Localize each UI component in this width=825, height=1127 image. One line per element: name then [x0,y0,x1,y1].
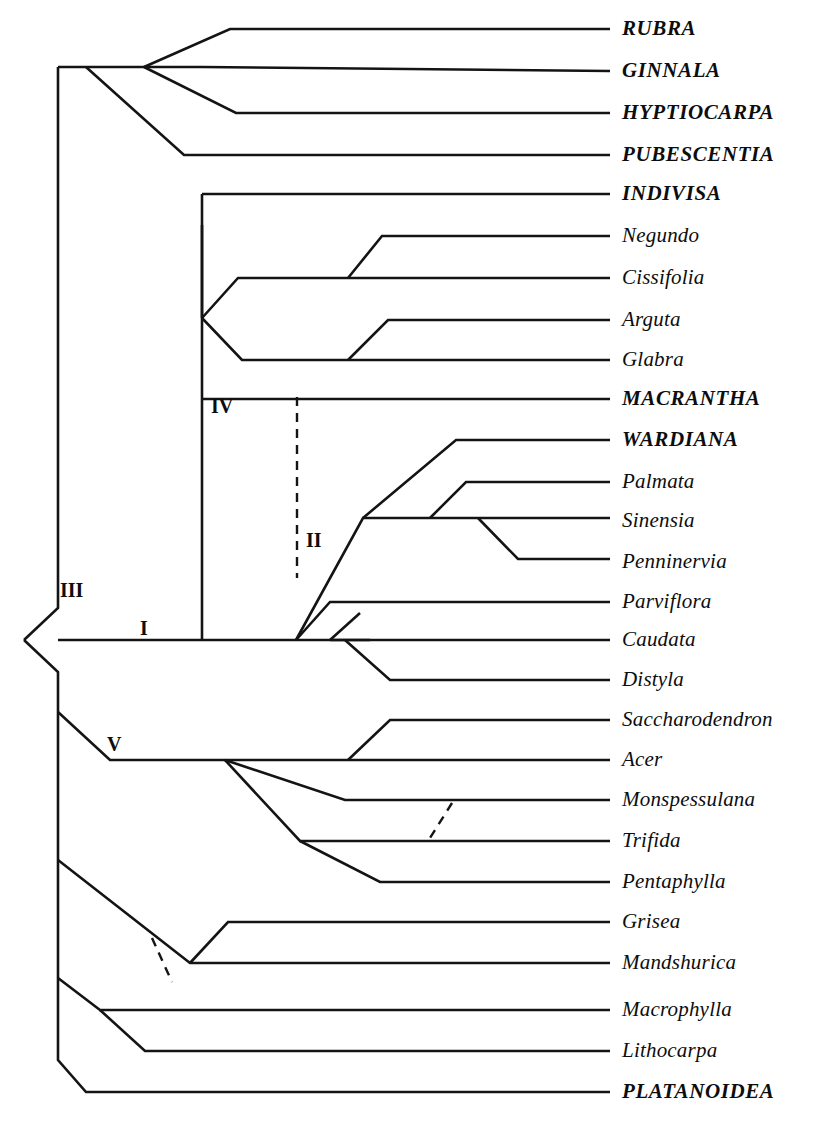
tip-label-penninervia: Penninervia [622,551,727,572]
branch-tip-arguta [348,320,610,360]
branch-tip-parviflora [296,602,610,640]
branch-IV-lower-pair [202,318,610,360]
branch-grisea-stem [58,860,610,963]
branch-tip-grisea [190,922,610,963]
branch-tip-monspessulana [225,760,610,800]
clade-mark-III: III [60,580,83,600]
tip-label-pentaphylla: Pentaphylla [622,871,726,892]
tip-label-distyla: Distyla [622,669,684,690]
branch-tip-penninervia [478,518,610,559]
tip-label-macrophylla: Macrophylla [622,999,732,1020]
clade-mark-I: I [140,618,148,638]
branch-tip-rubra [144,29,610,67]
branch-tip-wardiana [363,440,610,518]
tip-label-macrantha: MACRANTHA [622,388,760,409]
clade-mark-II: II [306,530,322,550]
branch-tip-negundo [348,236,610,278]
tip-label-cissifolia: Cissifolia [622,267,705,288]
tip-label-monspessulana: Monspessulana [622,789,755,810]
branch-tip-distyla [345,640,610,680]
branch-tip-pubescentia [86,67,610,155]
clade-mark-V: V [107,734,121,754]
tip-label-acer: Acer [622,749,662,770]
branch-IV-upper-pair [202,278,610,318]
tip-label-negundo: Negundo [622,225,699,246]
tip-label-glabra: Glabra [622,349,684,370]
branch-tip-palmata [430,482,610,518]
tip-label-trifida: Trifida [622,830,681,851]
branch-II-riser [296,518,610,640]
clade-mark-IV: IV [211,396,233,416]
tip-label-sinensia: Sinensia [622,510,695,531]
tip-label-wardiana: WARDIANA [622,429,738,450]
branch-tip-macrophylla [58,978,610,1010]
tip-label-arguta: Arguta [622,309,681,330]
tip-label-lithocarpa: Lithocarpa [622,1040,717,1061]
branch-tip-ginnala [202,67,610,71]
tip-label-rubra: RUBRA [622,18,696,39]
branch-tip-lithocarpa [100,1010,610,1051]
tip-label-indivisa: INDIVISA [622,183,721,204]
tip-label-palmata: Palmata [622,471,695,492]
tip-label-saccharodendron: Saccharodendron [622,709,773,730]
tip-label-caudata: Caudata [622,629,696,650]
branch-root-lower [24,640,610,1092]
tip-label-pubescentia: PUBESCENTIA [622,144,774,165]
tip-label-parviflora: Parviflora [622,591,712,612]
branch-II-stem [330,613,360,640]
tip-label-mandshurica: Mandshurica [622,952,736,973]
branch-tip-saccharodendron [348,720,610,760]
tip-label-hyptiocarpa: HYPTIOCARPA [622,102,774,123]
cladogram-figure: RUBRA GINNALA HYPTIOCARPA PUBESCENTIA IN… [0,0,825,1127]
tip-label-platanoidea: PLATANOIDEA [622,1081,774,1102]
branch-root-upper [24,67,58,640]
tip-label-ginnala: GINNALA [622,60,721,81]
branch-dashed-macrophylla-link [152,938,172,982]
branch-tip-hyptiocarpa [144,67,610,113]
tip-label-grisea: Grisea [622,911,680,932]
branch-tip-pentaphylla [300,841,610,882]
branch-dashed-monspessulana-trifida [430,803,452,838]
